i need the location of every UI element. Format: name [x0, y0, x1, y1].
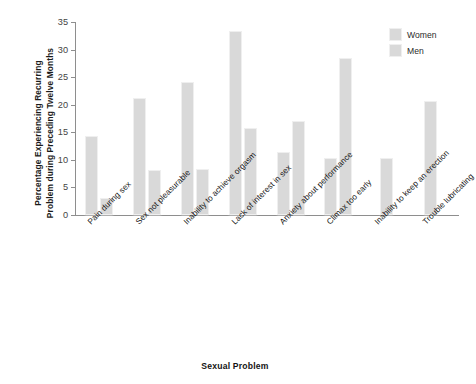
bar-group [229, 22, 267, 215]
chart-legend: Women Men [389, 27, 467, 59]
legend-label-women: Women [407, 30, 436, 40]
bar-group [181, 22, 219, 215]
y-axis-title-line-1: Percentage Experiencing Recurring [33, 18, 45, 248]
bar-group [324, 22, 362, 215]
legend-swatch-women-icon [389, 28, 402, 41]
bar-women [181, 82, 194, 215]
y-axis-tick-label: 20 [48, 100, 68, 110]
bar-group [133, 22, 171, 215]
y-axis-tick-label: 25 [48, 72, 68, 82]
y-axis-tick-label: 10 [48, 155, 68, 165]
x-axis-title: Sexual Problem [0, 361, 470, 371]
legend-item-men: Men [389, 43, 467, 58]
legend-label-men: Men [407, 46, 424, 56]
y-axis-tick-label: 15 [48, 127, 68, 137]
legend-item-women: Women [389, 27, 467, 42]
x-axis-line [75, 215, 459, 216]
bar-women [85, 136, 98, 215]
bar-women [133, 98, 146, 215]
bar-women [229, 31, 242, 215]
y-axis-tick-label: 5 [48, 182, 68, 192]
legend-swatch-men-icon [389, 44, 402, 57]
y-axis-tick-label: 30 [48, 45, 68, 55]
y-axis-tick-label: 35 [48, 17, 68, 27]
bar-group [277, 22, 315, 215]
y-axis-tick-label: 0 [48, 210, 68, 220]
bar-men [339, 58, 352, 215]
bar-group [85, 22, 123, 215]
